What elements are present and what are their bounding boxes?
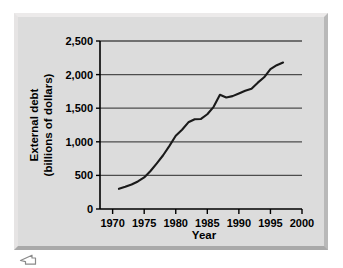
y-axis-title-line2: (billions of dollars) bbox=[42, 73, 54, 176]
x-tick-label: 1990 bbox=[227, 217, 251, 229]
y-tick-label: 2,500 bbox=[65, 35, 93, 47]
data-series-line bbox=[119, 63, 283, 189]
external-debt-line-chart: 05001,0001,5002,0002,500 197019751980198… bbox=[18, 17, 324, 246]
x-axis-ticks: 1970197519801985199019952000 bbox=[100, 209, 314, 229]
x-tick-label: 1985 bbox=[195, 217, 219, 229]
x-tick-label: 1970 bbox=[100, 217, 124, 229]
y-tick-label: 1,000 bbox=[65, 136, 93, 148]
x-tick-label: 1995 bbox=[258, 217, 282, 229]
figure-frame: 05001,0001,5002,0002,500 197019751980198… bbox=[14, 13, 328, 250]
x-axis-title: Year bbox=[192, 229, 217, 241]
y-tick-label: 1,500 bbox=[65, 102, 93, 114]
x-tick-label: 2000 bbox=[290, 217, 314, 229]
y-axis-title-line1: External debt bbox=[28, 88, 40, 161]
y-tick-label: 2,000 bbox=[65, 69, 93, 81]
figure-inner: 05001,0001,5002,0002,500 197019751980198… bbox=[18, 17, 324, 246]
y-tick-label: 0 bbox=[87, 203, 93, 215]
pointer-cursor-icon bbox=[19, 253, 37, 266]
x-tick-label: 1975 bbox=[132, 217, 156, 229]
gridlines bbox=[100, 41, 302, 175]
y-tick-label: 500 bbox=[75, 169, 93, 181]
y-axis-ticks: 05001,0001,5002,0002,500 bbox=[65, 35, 100, 215]
x-tick-label: 1980 bbox=[164, 217, 188, 229]
y-axis-title: External debt (billions of dollars) bbox=[28, 73, 54, 176]
